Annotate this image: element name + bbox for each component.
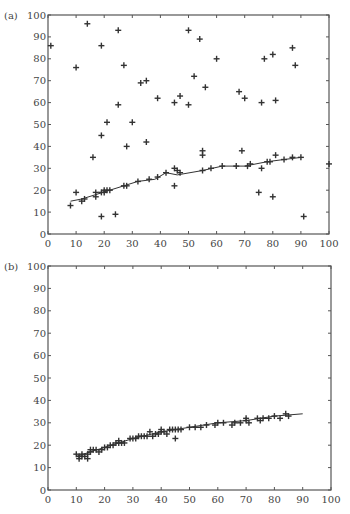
x-tick-label: 40 [154,238,167,249]
data-point-marker [178,427,184,433]
y-tick-label: 20 [33,185,46,196]
data-point-marker [192,424,198,430]
data-point-marker [90,154,96,160]
data-point-marker [219,163,225,169]
x-tick-label: 10 [70,494,83,505]
plot-frame [48,15,329,234]
data-point-marker [163,170,169,176]
data-point-marker [298,154,304,160]
fit-line [71,157,301,201]
data-point-marker [73,189,79,195]
data-point-marker [203,422,209,428]
data-point-marker [256,189,262,195]
x-tick-label: 90 [296,494,309,505]
y-tick-label: 70 [33,75,46,86]
x-tick-label: 100 [321,494,340,505]
x-tick-label: 30 [127,494,140,505]
data-point-marker [270,194,276,200]
data-point-marker [270,51,276,57]
x-tick-label: 50 [182,238,195,249]
y-tick-label: 80 [33,305,46,316]
x-tick-label: 70 [238,238,251,249]
data-point-marker [202,84,208,90]
data-point-marker [98,213,104,219]
data-point-marker [233,163,239,169]
data-point-marker [129,119,135,125]
y-tick-label: 50 [33,373,46,384]
data-point-marker [281,157,287,163]
x-tick-label: 100 [319,238,338,249]
chart-panel-a: 0102030405060708090100010203040506070809… [0,0,350,257]
y-tick-label: 100 [27,261,46,272]
data-point-marker [197,36,203,42]
x-tick-label: 70 [240,494,253,505]
data-point-marker [191,73,197,79]
data-point-marker [171,183,177,189]
data-point-marker [146,176,152,182]
data-point-marker [135,178,141,184]
panel-label: (b) [4,261,18,272]
data-point-marker [104,119,110,125]
data-point-marker [259,165,265,171]
data-point-marker [267,159,273,165]
x-tick-label: 50 [183,494,196,505]
data-point-marker [98,43,104,49]
data-point-marker [67,203,73,209]
data-point-marker [124,183,130,189]
data-point-marker [200,152,206,158]
x-tick-label: 60 [210,238,223,249]
data-point-marker [171,100,177,106]
data-point-marker [121,62,127,68]
data-point-marker [292,62,298,68]
y-tick-label: 10 [33,462,46,473]
y-tick-label: 30 [33,417,46,428]
data-point-marker [236,89,242,95]
data-point-marker [186,102,192,108]
panel-label: (a) [4,10,18,21]
x-tick-label: 0 [45,238,51,249]
data-point-marker [143,139,149,145]
data-point-marker [273,97,279,103]
x-tick-label: 20 [98,494,111,505]
data-point-marker [242,95,248,101]
data-point-marker [107,187,113,193]
y-tick-label: 60 [33,97,46,108]
y-tick-label: 100 [27,10,46,21]
data-point-marker [259,100,265,106]
x-tick-label: 40 [155,494,168,505]
data-point-marker [115,102,121,108]
data-point-marker [93,189,99,195]
x-tick-label: 90 [295,238,308,249]
y-tick-label: 40 [33,141,46,152]
data-point-marker [326,161,332,167]
y-tick-label: 90 [33,283,46,294]
x-tick-label: 80 [268,494,281,505]
data-point-marker [214,56,220,62]
chart-panel-b: 0102030405060708090100010203040506070809… [0,257,350,514]
x-tick-label: 80 [266,238,279,249]
scatter-chart-a: 0102030405060708090100010203040506070809… [0,0,350,257]
data-point-marker [124,143,130,149]
data-point-marker [273,152,279,158]
y-tick-label: 70 [33,328,46,339]
y-tick-label: 80 [33,53,46,64]
data-point-marker [112,211,118,217]
data-point-marker [155,95,161,101]
y-tick-label: 0 [40,485,46,496]
x-tick-label: 10 [70,238,83,249]
x-tick-label: 20 [98,238,111,249]
data-point-marker [301,213,307,219]
data-point-marker [177,93,183,99]
y-tick-label: 60 [33,350,46,361]
data-point-marker [143,78,149,84]
x-tick-label: 0 [45,494,51,505]
data-point-marker [98,132,104,138]
y-tick-label: 40 [33,395,46,406]
data-point-marker [261,56,267,62]
data-point-marker [138,80,144,86]
x-tick-label: 60 [211,494,224,505]
x-tick-label: 30 [126,238,139,249]
data-point-marker [187,424,193,430]
data-point-marker [208,165,214,171]
y-tick-label: 0 [40,229,46,240]
